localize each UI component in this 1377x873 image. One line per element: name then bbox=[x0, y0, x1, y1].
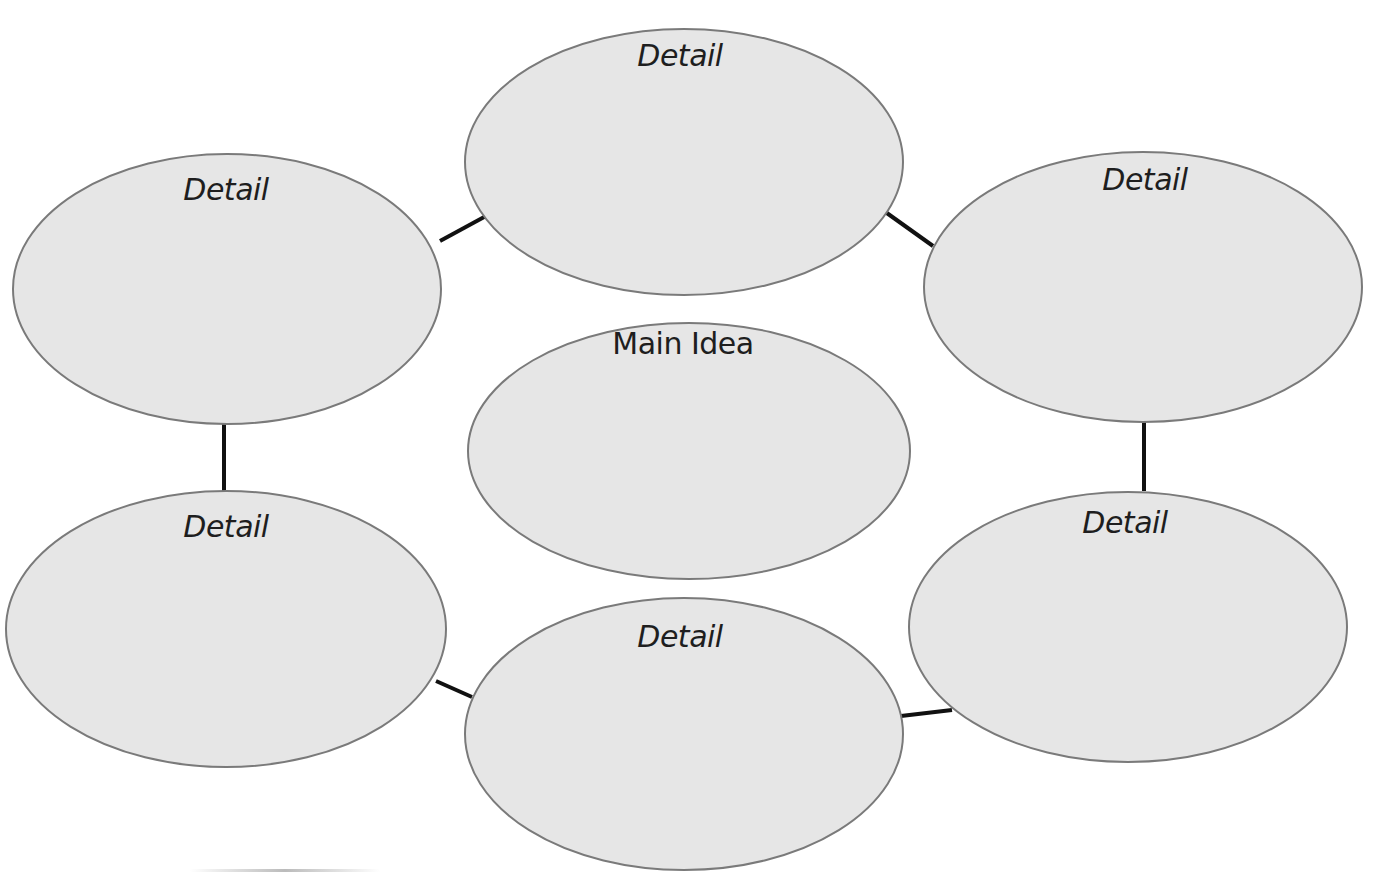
concept-web-diagram bbox=[0, 0, 1377, 873]
detail-label-bottom: Detail bbox=[637, 619, 722, 654]
detail-label-bottom-left: Detail bbox=[183, 509, 268, 544]
detail-label-top-right: Detail bbox=[1102, 162, 1187, 197]
detail-label-top: Detail bbox=[637, 38, 722, 73]
detail-label-top-left: Detail bbox=[183, 172, 268, 207]
footer-divider bbox=[190, 869, 380, 872]
main-idea-label: Main Idea bbox=[612, 326, 753, 361]
connector-top-left-to-top bbox=[440, 216, 486, 241]
node-ellipses bbox=[6, 29, 1362, 870]
detail-label-bottom-right: Detail bbox=[1082, 505, 1167, 540]
main-idea-ellipse bbox=[468, 323, 910, 579]
connector-top-to-top-right bbox=[884, 211, 933, 246]
connector-bottom-left-to-bottom bbox=[436, 681, 472, 697]
connector-bottom-to-bottom-right bbox=[901, 710, 952, 716]
